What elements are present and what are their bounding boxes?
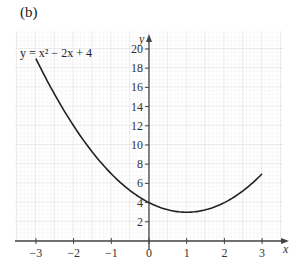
y-tick-label: 18: [131, 61, 143, 75]
x-tick-label: 1: [184, 246, 190, 260]
y-tick-label: 10: [131, 138, 143, 152]
y-axis-label: y: [138, 32, 145, 46]
y-tick-label: 2: [137, 215, 143, 229]
chart: −3−2−101232468101214161820 y = x² − 2x +…: [0, 0, 297, 276]
x-tick-label: 2: [221, 246, 227, 260]
equation-label: y = x² − 2x + 4: [20, 46, 92, 60]
y-tick-label: 12: [131, 119, 143, 133]
y-tick-label: 6: [137, 176, 143, 190]
x-tick-label: 0: [146, 246, 152, 260]
x-tick-label: −3: [30, 246, 43, 260]
y-tick-label: 14: [131, 100, 143, 114]
x-tick-label: −1: [105, 246, 118, 260]
x-tick-label: 3: [259, 246, 265, 260]
x-tick-label: −2: [67, 246, 80, 260]
y-tick-label: 8: [137, 157, 143, 171]
x-axis-label: x: [282, 242, 289, 256]
y-tick-label: 16: [131, 80, 143, 94]
